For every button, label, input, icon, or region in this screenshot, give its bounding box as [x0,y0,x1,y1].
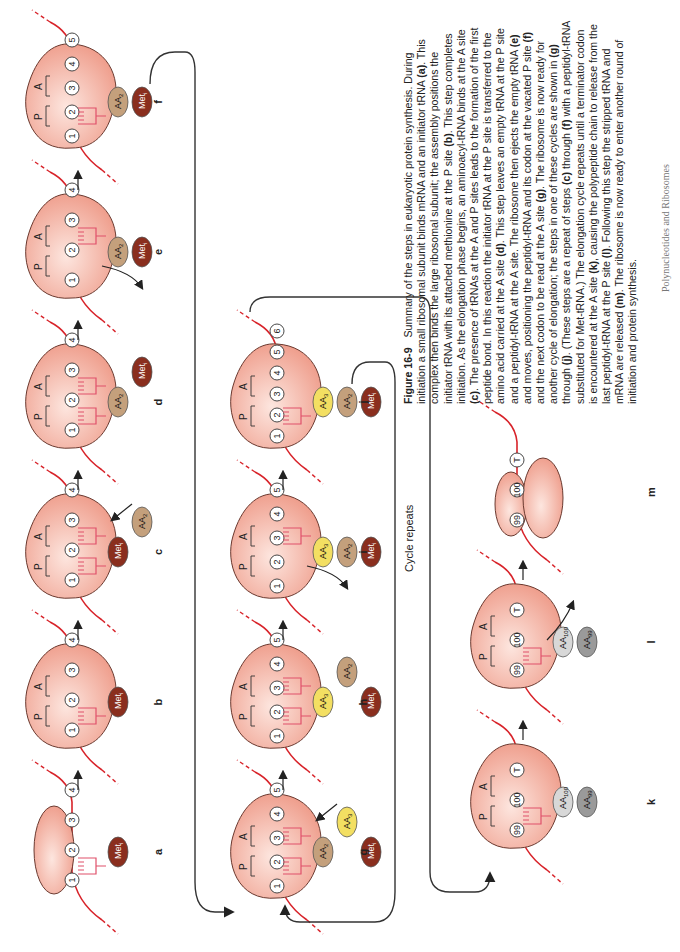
panel-f: PA12345AA2Metif [26,10,164,184]
codon-number: 3 [272,391,282,396]
amino-acid-subscript: i [118,843,124,844]
caption-segment: and moves, positioning the peptidyl-tRNA… [521,43,533,404]
p-site-label: P [33,713,44,720]
panel-c: PA1234MetiAA2c [26,460,164,634]
amino-acid-subscript: i [371,393,377,394]
codon-number: 5 [272,787,282,792]
codon-number: 4 [272,811,282,816]
codon-number: 2 [272,859,282,864]
a-site-label: A [33,233,44,240]
caption-segment: (f) [560,120,572,131]
codon-number: 1 [67,577,77,582]
panel-label-j: j [357,400,369,404]
codon-number: 5 [67,37,77,42]
codon-number: T [512,457,522,463]
panel-label-g: g [357,849,369,856]
p-site-label: P [478,813,489,820]
incoming-trna-arrow [317,804,337,820]
amino-acid-subscript: 99 [587,630,593,637]
figure-caption: Figure 16-9Summary of the steps in eukar… [402,20,640,404]
p-site-label: P [238,413,249,420]
mrna-dashed-end [102,620,118,634]
a-site-label: A [33,383,44,390]
p-site-label: P [33,563,44,570]
p-site-label: P [238,563,249,570]
panel-i: PA12345AA3AA2Metii [231,460,381,634]
amino-acid-subscript: 100 [563,786,569,797]
a-site-label: A [238,683,249,690]
codon-number: 4 [67,787,77,792]
panel-label-f: f [152,100,164,104]
codon-number: 2 [67,397,77,402]
codon-number: 99 [512,515,522,525]
amino-acid-label: Meti [113,843,124,859]
codon-number: 100 [512,482,522,497]
codon-number: 5 [272,637,282,642]
mrna-dashed-end [237,310,255,322]
panel-label-c: c [152,549,164,555]
panel-e: PA1234AA2Metie [26,160,164,334]
mrna-dashed-end [32,160,50,172]
codon-number: 3 [67,667,77,672]
panel-a: 1234Metia [32,760,164,934]
codon-number: 2 [67,547,77,552]
caption-segment: (e) [508,34,520,47]
cycle-repeats-label: Cycle repeats [403,504,415,572]
caption-segment: and the next codon to be read at the A s… [534,203,546,404]
codon-number: 2 [272,412,282,417]
p-site-label: P [478,653,489,660]
codon-number: 1 [67,877,77,882]
amino-acid-subscript: i [371,843,377,844]
large-ribosomal-subunit [523,458,563,538]
caption-segment: (g) [547,44,559,58]
incoming-trna-arrow [112,504,132,520]
codon-number: 5 [272,349,282,354]
small-ribosomal-subunit [495,472,527,536]
codon-number: 1 [272,433,282,438]
panel-label-m: m [645,487,657,497]
mrna-dashed-end [32,460,50,472]
mrna-dashed-end [102,920,118,934]
caption-segment: (j) [560,355,572,365]
codon-number: 1 [67,727,77,732]
codon-number: 99 [512,825,522,835]
codon-number: 2 [272,709,282,714]
mrna-dashed-end [32,10,50,22]
caption-segment: through [560,130,572,172]
caption-segment: (g) [534,189,546,203]
codon-number: 2 [272,559,282,564]
mrna-dashed-end [237,460,255,472]
amino-acid-subscript: i [142,243,148,244]
caption-segment: (k) [587,261,599,274]
panel-label-k: k [645,798,657,805]
a-site-label: A [238,383,249,390]
mrna-dashed-end [307,770,323,784]
panel-j: PA123456AA3AA2Metij [231,310,381,484]
a-site-label: A [478,783,489,790]
mrna-dashed-end [307,620,323,634]
codon-number: 5 [272,487,282,492]
panel-l: PA99100TAA100AA99l [471,550,657,724]
caption-segment: (c) [560,172,572,185]
amino-acid-subscript: i [142,363,148,364]
mrna-dashed-end [547,560,563,574]
caption-segment: (f) [521,32,533,43]
mrna-dashed-end [477,550,495,562]
connector-f-to-g [150,52,232,912]
mrna-dashed-end [102,170,118,184]
p-site-label: P [33,413,44,420]
p-site-label: P [238,863,249,870]
rotated-textbook-page: 1234MetiaPA1234MetibPA1234MetiAA2cPA1234… [0,0,680,952]
amino-acid-subscript: i [118,693,124,694]
a-site-label: A [33,683,44,690]
a-site-label: A [33,83,44,90]
codon-number: 3 [67,85,77,90]
mrna-dashed-end [32,610,50,622]
panel-label-a: a [152,848,164,855]
panel-k: PA99100TAA100AA99k [471,710,657,884]
amino-acid-label: Meti [113,543,124,559]
mrna-dashed-end [102,320,118,334]
amino-acid-subscript: i [142,93,148,94]
panel-m: 99100Tm [477,400,657,574]
a-site-label: A [238,533,249,540]
